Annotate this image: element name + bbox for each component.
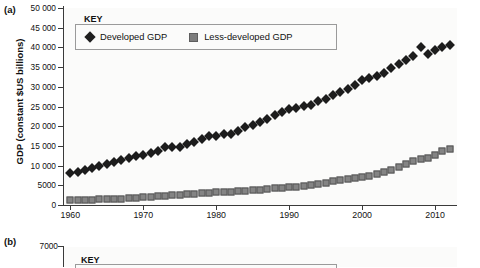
y-tick-mark (58, 146, 63, 147)
y-axis-line-b (63, 246, 64, 267)
data-point (249, 187, 256, 194)
data-point (176, 192, 183, 199)
data-point (381, 169, 388, 176)
data-point (220, 188, 227, 195)
x-tick-label: 1970 (123, 210, 163, 220)
data-point (162, 192, 169, 199)
y-tick-label: 25 000 (10, 102, 56, 112)
data-point (257, 186, 264, 193)
x-tick-mark (70, 205, 71, 210)
data-point (322, 179, 329, 186)
y-tick-mark (58, 126, 63, 127)
y-tick-mark (58, 166, 63, 167)
y-tick-mark (58, 47, 63, 48)
data-point (373, 171, 380, 178)
x-axis-line (63, 205, 457, 206)
data-point (344, 176, 351, 183)
data-point (227, 188, 234, 195)
y-tick-label: 50 000 (10, 3, 56, 13)
data-point (293, 183, 300, 190)
legend-label-less-developed-gdp: Less-developed GDP (204, 32, 292, 42)
data-point (351, 175, 358, 182)
data-point (278, 184, 285, 191)
legend-item-less-developed-gdp: Less-developed GDP (189, 32, 292, 42)
y-axis-line (63, 6, 64, 206)
data-point (147, 193, 154, 200)
x-tick-label: 1980 (196, 210, 236, 220)
y-tick-mark (58, 185, 63, 186)
y-tick-label: 40 000 (10, 42, 56, 52)
y-tick-mark (58, 87, 63, 88)
data-point (191, 190, 198, 197)
legend-title-a: KEY (81, 14, 106, 24)
y-tick-label: 5000 (10, 180, 56, 190)
data-point (286, 184, 293, 191)
data-point (417, 155, 424, 162)
x-tick-mark (362, 205, 363, 210)
y-tick-label: 45 000 (10, 23, 56, 33)
data-point (388, 166, 395, 173)
y-tick-mark (58, 67, 63, 68)
y-tick-label: 20 000 (10, 121, 56, 131)
data-point (67, 197, 74, 204)
y-tick-label: 10 000 (10, 161, 56, 171)
y-tick-mark-b (58, 246, 63, 247)
legend-box-a: Developed GDP Less-developed GDP (75, 24, 337, 50)
data-point (198, 190, 205, 197)
data-point (118, 195, 125, 202)
x-tick-label: 1960 (50, 210, 90, 220)
data-point (89, 196, 96, 203)
data-point (439, 148, 446, 155)
data-point (424, 155, 431, 162)
x-tick-mark (435, 205, 436, 210)
x-tick-label: 2000 (342, 210, 382, 220)
y-tick-mark (58, 28, 63, 29)
data-point (446, 146, 453, 153)
data-point (395, 164, 402, 171)
data-point (205, 189, 212, 196)
legend-label-developed-gdp: Developed GDP (100, 32, 167, 42)
data-point (308, 181, 315, 188)
data-point (235, 188, 242, 195)
data-point (329, 178, 336, 185)
y-tick-label: 35 000 (10, 62, 56, 72)
data-point (264, 186, 271, 193)
data-point (366, 172, 373, 179)
y-tick-mark (58, 205, 63, 206)
y-tick-label-b: 7000 (12, 241, 58, 251)
data-point (184, 191, 191, 198)
chart-panel-a: (a) GDP (constant $US billions) 0500010 … (0, 0, 480, 228)
y-tick-mark (58, 8, 63, 9)
data-point (300, 182, 307, 189)
data-point (337, 176, 344, 183)
data-point (402, 161, 409, 168)
data-point (132, 194, 139, 201)
y-tick-mark (58, 107, 63, 108)
data-point (74, 197, 81, 204)
data-point (96, 196, 103, 203)
y-tick-label: 0 (10, 200, 56, 210)
legend-box-b (75, 264, 337, 268)
data-point (103, 196, 110, 203)
x-tick-label: 2010 (415, 210, 455, 220)
y-tick-label: 15 000 (10, 141, 56, 151)
data-point (432, 151, 439, 158)
data-point (410, 157, 417, 164)
data-point (315, 180, 322, 187)
data-point (359, 173, 366, 180)
data-point (242, 187, 249, 194)
data-point (125, 195, 132, 202)
data-point (154, 193, 161, 200)
data-point (169, 192, 176, 199)
data-point (271, 185, 278, 192)
legend-title-b: KEY (81, 255, 100, 265)
x-tick-mark (143, 205, 144, 210)
data-point (213, 189, 220, 196)
diamond-marker-icon (84, 31, 95, 42)
square-marker-icon (189, 33, 198, 42)
data-point (81, 196, 88, 203)
x-tick-mark (216, 205, 217, 210)
x-tick-mark (289, 205, 290, 210)
data-point (111, 195, 118, 202)
y-tick-label: 30 000 (10, 82, 56, 92)
